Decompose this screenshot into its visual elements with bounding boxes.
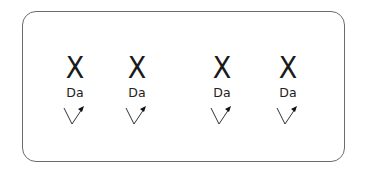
item-label: Da [117,85,157,101]
item-label: Da [55,85,95,101]
check-arrow-icon [62,105,88,127]
x-symbol: X [119,53,155,83]
item-label: Da [202,85,242,101]
chromosome-item: X Da [117,53,157,127]
chromosome-item: X Da [202,53,242,127]
check-arrow-icon [209,105,235,127]
x-symbol: X [270,53,306,83]
x-symbol: X [57,53,93,83]
chromosome-item: X Da [268,53,308,127]
item-label: Da [268,85,308,101]
check-arrow-icon [124,105,150,127]
chromosome-item: X Da [55,53,95,127]
x-symbol: X [204,53,240,83]
check-arrow-icon [275,105,301,127]
